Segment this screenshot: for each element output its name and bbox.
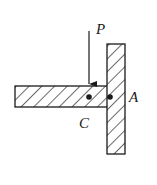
joint-diagram: P A C	[0, 0, 157, 185]
pin-a-dot	[107, 94, 113, 100]
label-c: C	[79, 115, 90, 131]
pin-c-dot	[86, 94, 92, 100]
label-p: P	[95, 21, 105, 37]
label-a: A	[128, 89, 139, 105]
horizontal-member	[15, 86, 108, 107]
